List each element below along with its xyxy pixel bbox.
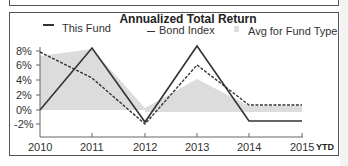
x-label-2012: 2012 [133,141,157,153]
y-label-6: 6% [16,59,32,71]
y-label-0: 0% [16,104,32,116]
y-ticks [36,51,40,124]
y-label-8: 8% [16,45,32,57]
x-label-2011: 2011 [80,141,104,153]
y-label-neg2: -2% [14,118,34,130]
y-label-2: 2% [16,89,32,101]
y-label-4: 4% [16,74,32,86]
x-label-2013: 2013 [185,141,209,153]
avg-area [40,49,302,112]
x-ticks [92,133,302,137]
x-label-2014: 2014 [237,141,261,153]
x-label-2010: 2010 [28,141,52,153]
ytd-label: YTD [316,142,334,152]
x-label-2015: 2015 [290,141,314,153]
